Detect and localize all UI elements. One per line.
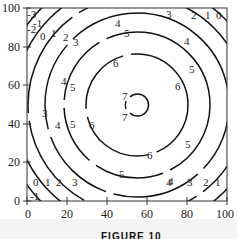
- svg-text:0: 0: [216, 9, 222, 21]
- svg-text:6: 6: [113, 57, 119, 69]
- svg-text:1: 1: [45, 176, 51, 188]
- svg-text:4: 4: [184, 35, 190, 47]
- svg-text:1: 1: [215, 176, 221, 188]
- figure-caption: FIGURE 10: [101, 231, 162, 239]
- svg-text:7: 7: [122, 111, 128, 123]
- svg-text:5: 5: [119, 168, 125, 180]
- svg-text:3: 3: [166, 8, 172, 20]
- svg-text:60: 60: [8, 78, 20, 92]
- contour-7b: [125, 101, 126, 109]
- svg-text:4: 4: [55, 119, 61, 131]
- contour-6: [86, 54, 188, 156]
- svg-text:5: 5: [185, 138, 191, 150]
- svg-text:100: 100: [2, 1, 20, 15]
- svg-text:0: 0: [40, 30, 46, 42]
- svg-text:0: 0: [33, 176, 39, 188]
- svg-text:2: 2: [63, 31, 69, 43]
- svg-text:7: 7: [122, 90, 128, 102]
- svg-text:5: 5: [124, 27, 130, 39]
- svg-text:20: 20: [8, 155, 20, 169]
- svg-text:6: 6: [147, 149, 153, 161]
- svg-text:2: 2: [203, 176, 209, 188]
- svg-text:6: 6: [175, 80, 181, 92]
- contour-7: [130, 94, 149, 116]
- svg-text:80: 80: [8, 40, 20, 54]
- svg-text:4: 4: [61, 75, 67, 87]
- svg-text:3: 3: [187, 176, 193, 188]
- svg-text:5: 5: [70, 118, 76, 130]
- contour-labels: 7 7 6 6 6 6 5 5 5 5 5 5 4 4 4 4 4 -3 -2 …: [27, 8, 222, 202]
- svg-text:40: 40: [8, 117, 20, 131]
- svg-text:4: 4: [166, 176, 172, 188]
- contour-lines: [0, 0, 237, 239]
- svg-text:6: 6: [89, 119, 95, 131]
- svg-text:4: 4: [115, 17, 121, 29]
- svg-text:3: 3: [72, 176, 78, 188]
- contour-plot: 7 7 6 6 6 6 5 5 5 5 5 5 4 4 4 4 4 -3 -2 …: [0, 0, 237, 239]
- svg-text:-1: -1: [30, 190, 39, 202]
- svg-text:0: 0: [14, 194, 20, 208]
- svg-text:5: 5: [70, 81, 76, 93]
- svg-text:-1: -1: [33, 17, 42, 29]
- svg-text:2: 2: [191, 9, 197, 21]
- contour-1: [1, 0, 237, 239]
- y-tick-labels: 0 20 40 60 80 100: [2, 1, 20, 208]
- svg-text:1: 1: [51, 27, 57, 39]
- svg-text:5: 5: [189, 63, 195, 75]
- svg-text:1: 1: [205, 9, 211, 21]
- svg-text:2: 2: [56, 176, 62, 188]
- svg-text:3: 3: [73, 36, 79, 48]
- svg-text:3: 3: [42, 107, 48, 119]
